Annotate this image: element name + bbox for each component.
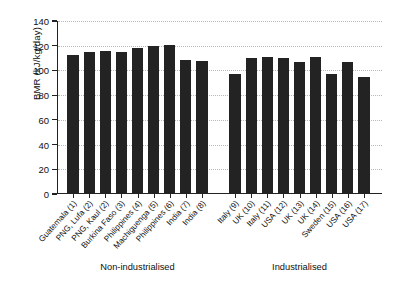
gridline (58, 46, 382, 47)
bar (229, 74, 240, 193)
x-tick-mark (202, 194, 203, 198)
x-tick-mark (73, 194, 74, 198)
group-label: Non-industrialised (68, 262, 208, 272)
group-label: Industrialised (230, 262, 370, 272)
bar (180, 60, 191, 193)
bar (148, 46, 159, 193)
x-tick-mark (283, 194, 284, 198)
y-tick-mark (52, 119, 57, 120)
bar (294, 62, 305, 193)
y-tick-label: 100 (33, 65, 49, 76)
x-tick-mark (267, 194, 268, 198)
y-tick-mark (52, 193, 57, 194)
bar (116, 52, 127, 193)
y-tick-mark (52, 20, 57, 21)
y-tick-label: 0 (44, 189, 49, 200)
x-tick-mark (154, 194, 155, 198)
bar (326, 74, 337, 193)
x-tick-mark (364, 194, 365, 198)
bmr-bar-chart-figure: BMR (kJ/kg/day) 020406080100120140 Guate… (0, 0, 398, 284)
x-tick-mark (251, 194, 252, 198)
bar (164, 45, 175, 193)
plot-area: 020406080100120140 (57, 21, 382, 194)
x-tick-mark (235, 194, 236, 198)
y-tick-label: 20 (38, 164, 49, 175)
x-tick-mark (332, 194, 333, 198)
y-axis-line (57, 21, 58, 194)
gridline (58, 21, 382, 22)
x-tick-mark (170, 194, 171, 198)
x-tick-mark (300, 194, 301, 198)
bar (310, 57, 321, 193)
y-tick-mark (52, 70, 57, 71)
bar (196, 61, 207, 193)
x-tick-mark (316, 194, 317, 198)
y-tick-label: 120 (33, 40, 49, 51)
y-tick-label: 140 (33, 16, 49, 27)
bar (358, 77, 369, 193)
x-tick-mark (138, 194, 139, 198)
y-tick-mark (52, 169, 57, 170)
bar (67, 55, 78, 193)
bar (246, 58, 257, 193)
x-tick-mark (348, 194, 349, 198)
x-tick-mark (186, 194, 187, 198)
y-tick-mark (52, 144, 57, 145)
bar (84, 52, 95, 193)
x-tick-mark (121, 194, 122, 198)
y-tick-label: 40 (38, 139, 49, 150)
y-tick-label: 60 (38, 114, 49, 125)
bar (100, 51, 111, 193)
y-tick-mark (52, 45, 57, 46)
bar (132, 48, 143, 193)
y-tick-mark (52, 95, 57, 96)
bar (342, 62, 353, 193)
bar (262, 57, 273, 193)
x-tick-mark (89, 194, 90, 198)
bar (278, 58, 289, 193)
x-tick-mark (105, 194, 106, 198)
y-tick-label: 80 (38, 90, 49, 101)
